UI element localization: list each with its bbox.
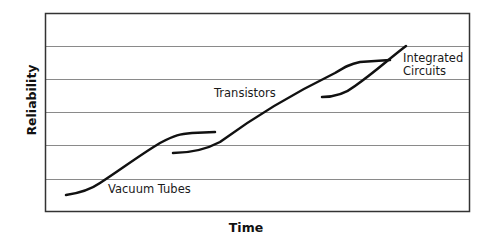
reliability-chart: Vacuum Tubes Transistors Integrated Circ… (0, 0, 494, 239)
transistors-label: Transistors (213, 86, 276, 100)
vacuum-tubes-label: Vacuum Tubes (108, 182, 191, 196)
x-axis-label: Time (229, 220, 263, 235)
transistors-curve (173, 60, 390, 153)
integrated-circuits-curve (322, 46, 406, 97)
y-axis-label: Reliability (24, 64, 39, 135)
integrated-circuits-label-line1: Integrated (403, 51, 463, 65)
integrated-circuits-label-line2: Circuits (403, 64, 446, 78)
